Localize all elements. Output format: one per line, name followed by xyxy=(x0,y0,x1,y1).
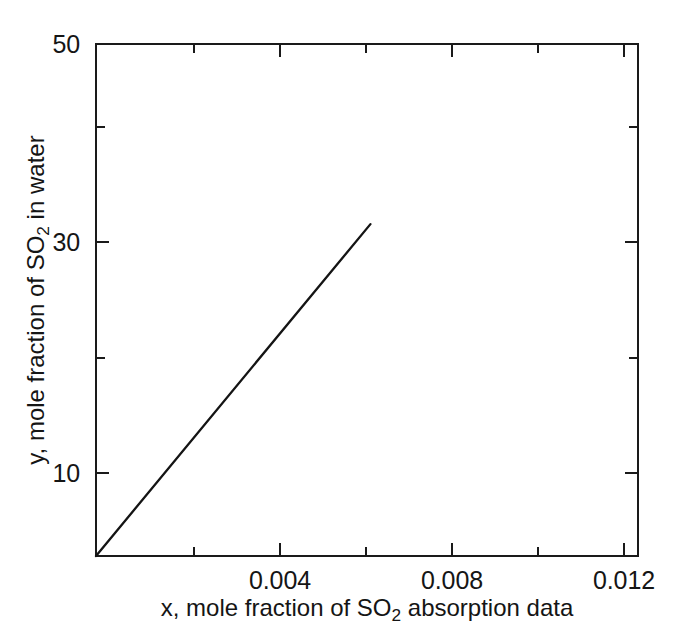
x-axis-title-pre: x, mole fraction of SO xyxy=(161,594,392,621)
y-tick-label-30: 30 xyxy=(52,228,80,257)
x-axis-title: x, mole fraction of SO2 absorption data xyxy=(161,594,574,626)
x-tick-label-0004: 0.004 xyxy=(249,566,311,595)
x-axis-minor-ticks xyxy=(194,547,538,556)
x-axis-top-major-ticks xyxy=(280,44,624,57)
x-tick-label-0012: 0.012 xyxy=(593,566,655,595)
series-equilibrium-line xyxy=(96,224,370,556)
x-axis-major-ticks xyxy=(280,543,624,556)
plot-frame xyxy=(96,44,638,556)
figure-container: 0.004 0.008 0.012 50 30 10 x, mole fract… xyxy=(0,0,699,635)
y-axis-title-subscript: 2 xyxy=(33,226,53,236)
chart-canvas xyxy=(0,0,699,635)
y-axis-title: y, mole fraction of SO2 in water xyxy=(22,135,54,464)
y-tick-label-50: 50 xyxy=(52,30,80,59)
y-axis-major-ticks xyxy=(96,44,109,473)
x-tick-label-0008: 0.008 xyxy=(421,566,483,595)
y-tick-label-10: 10 xyxy=(52,459,80,488)
y-axis-title-post: in water xyxy=(22,135,49,226)
x-axis-title-subscript: 2 xyxy=(392,605,402,625)
x-axis-title-post: absorption data xyxy=(401,594,573,621)
x-axis-top-minor-ticks xyxy=(194,44,538,53)
y-axis-title-pre: y, mole fraction of SO xyxy=(22,236,49,465)
